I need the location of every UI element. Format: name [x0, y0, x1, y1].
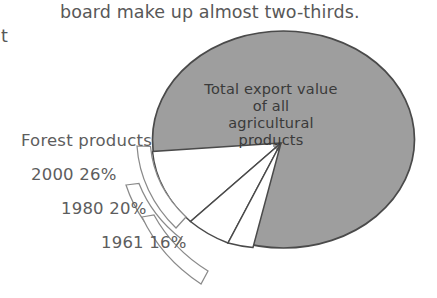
series-label-forest-products: Forest products — [21, 131, 152, 150]
caption-text: board make up almost two-thirds. — [60, 2, 360, 22]
callout-label-1980: 1980 20% — [61, 199, 147, 218]
callout-label-1961: 1961 16% — [101, 233, 187, 252]
pie-center-label: Total export value of all agricultural p… — [196, 81, 346, 149]
pie-center-label-line2: agricultural products — [196, 115, 346, 149]
callout-label-2000: 2000 26% — [31, 165, 117, 184]
cropped-margin-letter: t — [1, 26, 8, 46]
figure-page: board make up almost two-thirds. t Total… — [0, 0, 437, 298]
pie-center-label-line1: Total export value of all — [204, 81, 337, 114]
